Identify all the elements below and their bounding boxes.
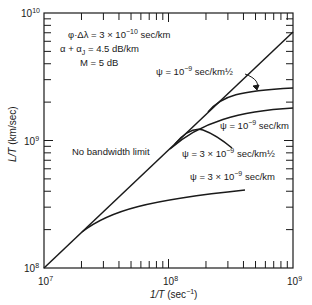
x-tick-label-1e8: 108: [163, 275, 178, 287]
y-axis-title: L/T (km/sec): [7, 106, 18, 162]
param-phi-delta-lambda: φ·Δλ = 3 × 10−10 sec/km: [68, 28, 171, 40]
curve-psi-3e-9-sec-km: [82, 190, 245, 232]
y-tick-label-1e10: 1010: [21, 7, 40, 19]
label-no-bandwidth-limit: No bandwidth limit: [72, 146, 150, 157]
param-alpha: α + αJ = 4.5 dB/km: [60, 43, 139, 56]
y-tick-label-1e8: 108: [24, 262, 39, 274]
pointer-arrow-head: [253, 85, 259, 90]
x-tick-label-1e9: 109: [287, 275, 302, 287]
param-m: M = 5 dB: [80, 57, 118, 68]
chart-canvas: 1010 109 108 107 108 109 1/T (sec−1) L/T…: [0, 0, 312, 305]
x-tick-label-1e7: 107: [38, 275, 53, 287]
label-psi-1e-9-sec-km: ψ = 10−9 sec/km: [220, 119, 289, 131]
label-psi-1e-9-sec-km-half: ψ = 10−9 sec/km½: [156, 65, 233, 77]
label-psi-3e-9-sec-km-half: ψ = 3 × 10−9 sec/km½: [182, 147, 275, 159]
y-tick-label-1e9: 109: [24, 135, 39, 147]
x-axis-title: 1/T (sec−1): [150, 288, 197, 300]
label-psi-3e-9-sec-km: ψ = 3 × 10−9 sec/km: [190, 170, 275, 182]
